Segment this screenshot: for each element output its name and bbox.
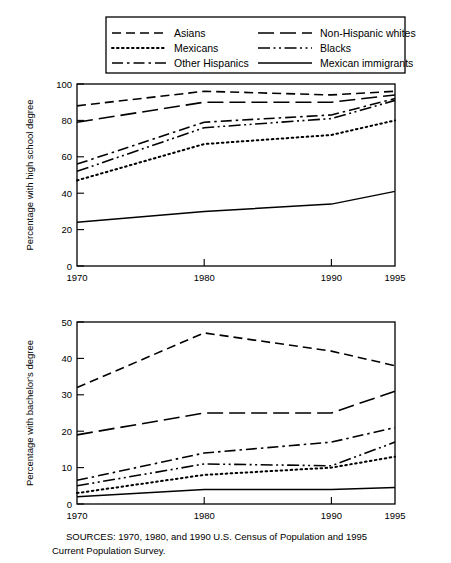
legend-label-asians: Asians — [174, 27, 206, 39]
series-line-mexican-immigrants — [77, 191, 395, 222]
series-line-asians — [77, 91, 395, 106]
legend: AsiansMexicansOther HispanicsNon-Hispani… — [106, 17, 416, 73]
chart-figure: AsiansMexicansOther HispanicsNon-Hispani… — [0, 0, 451, 563]
series-line-mexican-immigrants — [77, 488, 395, 497]
y-axis-title-bachelors: Percentage with bachelor's degree — [24, 340, 35, 486]
x-axis-ticks-high-school: 1970198019901995 — [66, 259, 405, 283]
x-tick-label: 1995 — [384, 272, 405, 283]
figure-container: AsiansMexicansOther HispanicsNon-Hispani… — [0, 0, 451, 563]
y-tick-label: 50 — [61, 317, 72, 328]
y-tick-label: 30 — [61, 389, 72, 400]
y-tick-label: 80 — [61, 115, 72, 126]
legend-label-blacks: Blacks — [320, 42, 351, 54]
series-line-mexicans — [77, 457, 395, 493]
x-tick-label: 1990 — [321, 510, 342, 521]
series-group-high-school — [77, 91, 395, 222]
x-tick-label: 1970 — [66, 272, 87, 283]
x-tick-label: 1990 — [321, 272, 342, 283]
legend-items: AsiansMexicansOther HispanicsNon-Hispani… — [112, 27, 416, 69]
chart-high-school: 020406080100 1970198019901995 Percentage… — [24, 79, 406, 284]
y-tick-label: 20 — [61, 224, 72, 235]
series-line-blacks — [77, 100, 395, 171]
x-tick-label: 1970 — [66, 510, 87, 521]
y-tick-label: 40 — [61, 353, 72, 364]
chart-bachelors: 01020304050 1970198019901995 Percentage … — [24, 317, 406, 522]
y-tick-label: 0 — [67, 261, 72, 272]
plot-frame-high-school — [77, 84, 395, 266]
source-note-line-2: Current Population Survey. — [52, 545, 165, 556]
y-tick-label: 100 — [56, 79, 72, 90]
series-group-bachelors — [77, 333, 395, 497]
series-line-non-hispanic-whites — [77, 391, 395, 435]
series-line-blacks — [77, 442, 395, 486]
legend-label-other-hispanics: Other Hispanics — [174, 57, 249, 69]
x-axis-ticks-bachelors: 1970198019901995 — [66, 497, 405, 521]
series-line-non-hispanic-whites — [77, 95, 395, 122]
y-tick-label: 40 — [61, 188, 72, 199]
x-tick-label: 1980 — [194, 510, 215, 521]
y-axis-ticks-bachelors: 01020304050 — [61, 317, 84, 510]
source-note-line-1: SOURCES: 1970, 1980, and 1990 U.S. Censu… — [66, 531, 367, 542]
y-tick-label: 0 — [67, 499, 72, 510]
x-tick-label: 1980 — [194, 272, 215, 283]
legend-label-non-hispanic-whites: Non-Hispanic whites — [320, 27, 416, 39]
y-tick-label: 60 — [61, 151, 72, 162]
y-tick-label: 10 — [61, 462, 72, 473]
series-line-asians — [77, 333, 395, 388]
y-axis-title-high-school: Percentage with high school degree — [24, 99, 35, 250]
legend-label-mexican-immigrants: Mexican immigrants — [320, 57, 413, 69]
series-line-mexicans — [77, 120, 395, 180]
legend-label-mexicans: Mexicans — [174, 42, 218, 54]
x-tick-label: 1995 — [384, 510, 405, 521]
y-tick-label: 20 — [61, 426, 72, 437]
y-axis-ticks-high-school: 020406080100 — [56, 79, 84, 272]
